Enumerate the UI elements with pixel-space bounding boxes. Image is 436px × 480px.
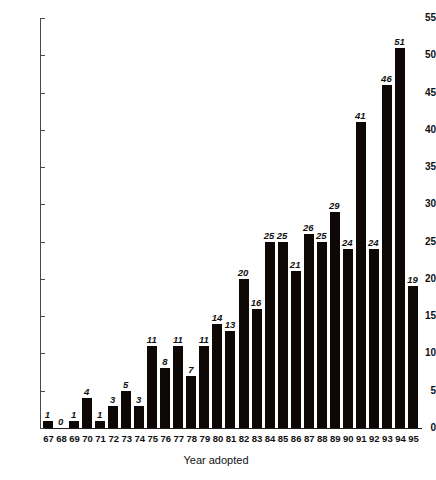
x-axis-tick-labels: 6768697071727374757677787980818283848586… — [40, 433, 422, 447]
bar-value-label: 20 — [235, 268, 252, 278]
bar-value-label: 11 — [195, 335, 212, 345]
bar-slot: 1 — [94, 18, 107, 428]
bar-slot: 0 — [55, 18, 68, 428]
bar-value-label: 29 — [326, 201, 343, 211]
bar-value-label: 8 — [156, 357, 173, 367]
bar — [369, 249, 379, 428]
bar-slot: 14 — [211, 18, 224, 428]
bar — [265, 242, 275, 428]
bar-value-label: 24 — [365, 238, 382, 248]
bar — [343, 249, 353, 428]
bar-slot: 29 — [329, 18, 342, 428]
bar-slot: 25 — [264, 18, 277, 428]
bar-value-label: 51 — [391, 37, 408, 47]
x-axis-title-text: Year adopted — [183, 454, 248, 466]
bar — [317, 242, 327, 428]
bar-slot: 3 — [107, 18, 120, 428]
bar-value-label: 16 — [248, 298, 265, 308]
bar-slot: 1 — [42, 18, 55, 428]
bar-slot: 1 — [68, 18, 81, 428]
bar-slot: 25 — [316, 18, 329, 428]
x-axis-tick-label: 95 — [405, 433, 422, 445]
bar-value-label: 25 — [313, 231, 330, 241]
bar — [134, 406, 144, 428]
bar — [95, 421, 105, 428]
bar-value-label: 3 — [130, 395, 147, 405]
x-axis-line — [40, 428, 422, 429]
bar — [199, 346, 209, 428]
bar — [304, 234, 314, 428]
bar-value-label: 13 — [221, 320, 238, 330]
bar-value-label: 11 — [169, 335, 186, 345]
bar-slot: 4 — [81, 18, 94, 428]
bar — [69, 421, 79, 428]
bar-slot: 26 — [303, 18, 316, 428]
bar — [291, 271, 301, 428]
bar — [186, 376, 196, 428]
bar — [173, 346, 183, 428]
bar-value-label: 7 — [182, 365, 199, 375]
bar-value-label: 1 — [65, 410, 82, 420]
bar — [382, 85, 392, 428]
bar-value-label: 21 — [287, 260, 304, 270]
bar-slot: 3 — [133, 18, 146, 428]
bar-slot: 41 — [355, 18, 368, 428]
bar-slot: 13 — [224, 18, 237, 428]
bar-slot: 16 — [251, 18, 264, 428]
bar — [408, 286, 418, 428]
bar-slot: 51 — [394, 18, 407, 428]
bar-slot: 19 — [407, 18, 420, 428]
bar-slot: 5 — [120, 18, 133, 428]
bar-slot: 24 — [342, 18, 355, 428]
bar-value-label: 46 — [378, 74, 395, 84]
bar-value-label: 19 — [404, 275, 421, 285]
bar-slot: 7 — [185, 18, 198, 428]
bar-value-label: 4 — [78, 387, 95, 397]
bar-slot: 8 — [159, 18, 172, 428]
x-axis-title: Year adopted — [0, 454, 436, 467]
bar — [356, 122, 366, 428]
bar-slot: 11 — [198, 18, 211, 428]
bar-value-label: 1 — [91, 410, 108, 420]
bar — [108, 406, 118, 428]
bar-value-label: 5 — [117, 380, 134, 390]
bar-value-label: 11 — [143, 335, 160, 345]
y-axis-tick — [40, 428, 45, 429]
bar-slot: 46 — [381, 18, 394, 428]
bar-value-label: 25 — [274, 231, 291, 241]
bar — [160, 368, 170, 428]
bar-value-label: 3 — [104, 395, 121, 405]
bar-slot: 25 — [277, 18, 290, 428]
bar-series: 1014135311811711141320162525212625292441… — [40, 18, 422, 428]
bar — [225, 331, 235, 428]
bar-value-label: 24 — [339, 238, 356, 248]
bar — [395, 48, 405, 428]
bar — [212, 324, 222, 428]
bar-slot: 20 — [238, 18, 251, 428]
bar-value-label: 41 — [352, 111, 369, 121]
bar — [252, 309, 262, 428]
bar-chart: 0510152025303540455055 10141353118117111… — [0, 0, 436, 480]
